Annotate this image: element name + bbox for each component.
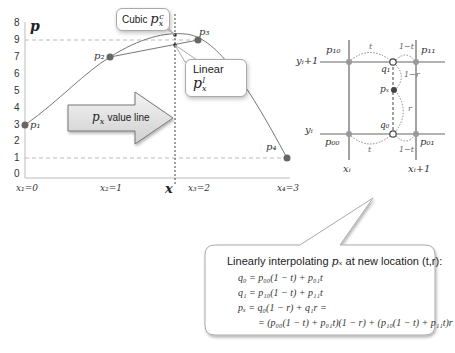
cubic-callout-box: Cubic pxc [116, 8, 170, 31]
point-px [391, 87, 397, 93]
label-q0: q₀ [380, 120, 389, 130]
label-r: r [408, 104, 412, 113]
point-p3 [195, 37, 202, 44]
label-p11: p₁₁ [421, 44, 435, 55]
formula-title-post: at new location (t,r): [343, 255, 443, 267]
label-p1: p₁ [30, 119, 40, 130]
label-1mt-bot: 1−t [399, 145, 414, 154]
label-px: pₓ [380, 84, 389, 94]
linear-callout-prefix: Linear [193, 63, 224, 75]
y-tick-8: 8 [14, 17, 20, 28]
x-tick-x: x [165, 181, 173, 196]
formula-line-expanded: = (p₀₀(1 − t) + p₀₁t)(1 − r) + (p₁₀(1 − … [258, 317, 453, 328]
label-p10: p₁₀ [326, 44, 340, 55]
diagram-canvas [0, 0, 455, 353]
point-q1 [390, 59, 396, 65]
left-chart [22, 14, 291, 184]
arc-1mr [396, 65, 401, 88]
label-y-top: yᵢ+1 [296, 55, 318, 66]
label-p2: p₂ [94, 50, 104, 61]
y-tick-1: 1 [14, 152, 20, 163]
label-p01: p₀₁ [420, 136, 434, 147]
linear-callout-sup: l [202, 76, 205, 85]
formula-title: Linearly interpolating pₓ at new locatio… [227, 255, 442, 268]
y-tick-0: 0 [14, 168, 20, 179]
y-tick-3: 3 [14, 119, 20, 130]
arc-1mt-bot [396, 136, 414, 141]
x-tick-x4: x₄=3 [277, 183, 299, 193]
label-p00: p₀₀ [325, 136, 339, 147]
y-tick-5: 5 [14, 85, 20, 96]
corner-p10 [346, 59, 352, 65]
label-t-top: t [369, 42, 372, 51]
label-y-bot: yᵢ [305, 124, 313, 135]
arc-t-bot [351, 136, 390, 144]
label-1mt-top: 1−t [399, 42, 414, 51]
corner-p00 [346, 131, 352, 137]
x-tick-x1: x₁=0 [16, 183, 38, 193]
y-tick-7: 7 [14, 51, 20, 62]
corner-p01 [413, 131, 419, 137]
point-q0 [390, 131, 396, 137]
cubic-callout-symbol: p [150, 11, 158, 26]
linear-callout-symbol: p [193, 75, 202, 91]
label-x-right: xᵢ+1 [408, 163, 430, 174]
y-tick-6: 6 [14, 68, 20, 79]
linear-callout-box: Linear pxl [185, 59, 247, 97]
x-tick-x3: x₃=2 [188, 183, 210, 193]
point-p1 [22, 122, 29, 129]
cubic-callout-sup: c [159, 12, 163, 21]
y-tick-4: 4 [14, 102, 20, 113]
point-p4 [284, 155, 291, 162]
y-tick-2: 2 [14, 135, 20, 146]
label-p4: p₄ [266, 141, 276, 152]
corner-p11 [413, 59, 419, 65]
linear-callout-sub: x [202, 84, 207, 93]
cubic-callout-prefix: Cubic [122, 14, 148, 25]
label-1mr: 1−r [404, 70, 420, 79]
formula-line-px: pₓ = q₀(1 − r) + q₁r = [238, 302, 327, 313]
formula-line-q0: q₀ = p₀₀(1 − t) + p₀₁t [238, 272, 323, 283]
y-tick-9: 9 [14, 34, 20, 45]
formula-title-symbol: pₓ [332, 255, 343, 268]
arc-r [396, 93, 403, 131]
arrow-label-text: value line [107, 112, 149, 123]
y-axis-title: p [30, 18, 40, 34]
arrow-label-symbol: p [92, 110, 100, 124]
label-x-left: xᵢ [343, 163, 351, 174]
arc-1mt-top [396, 55, 414, 60]
cubic-curve [25, 34, 287, 158]
arrow-label: px value line [92, 110, 150, 126]
x-tick-x2: x₂=1 [100, 183, 122, 193]
formula-title-pre: Linearly interpolating [227, 255, 332, 267]
arrow-label-sub: x [100, 117, 105, 126]
formula-line-q1: q₁ = p₁₀(1 − t) + p₁₁t [238, 287, 323, 298]
label-t-bot: t [368, 145, 371, 154]
point-p2 [107, 54, 114, 61]
label-q1: q₁ [381, 64, 390, 74]
label-p3: p₃ [199, 26, 209, 37]
arc-t-top [351, 53, 390, 61]
